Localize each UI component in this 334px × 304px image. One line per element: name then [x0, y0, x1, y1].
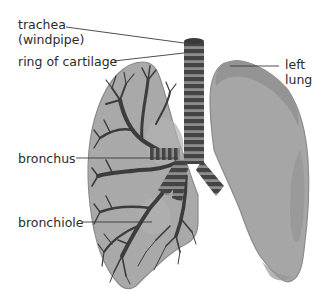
label-bronchiole: bronchiole: [18, 215, 83, 230]
label-bronchus-text: bronchus: [18, 151, 76, 166]
label-trachea-line2: (windpipe): [18, 32, 84, 47]
label-left-lung-line2: lung: [285, 72, 312, 87]
trachea: [184, 38, 204, 164]
label-left-lung-line1: left: [285, 57, 312, 72]
label-bronchiole-text: bronchiole: [18, 215, 83, 230]
label-ring-of-cartilage-text: ring of cartilage: [18, 54, 117, 69]
label-trachea-line1: trachea: [18, 17, 84, 32]
label-ring-of-cartilage: ring of cartilage: [18, 54, 117, 69]
label-trachea: trachea (windpipe): [18, 17, 84, 47]
lungs-diagram: trachea (windpipe) ring of cartilage lef…: [0, 0, 334, 304]
label-left-lung: left lung: [285, 57, 312, 87]
left-lung: [210, 61, 309, 283]
label-bronchus: bronchus: [18, 151, 76, 166]
leader-line-ring-of-cartilage: [114, 53, 184, 61]
